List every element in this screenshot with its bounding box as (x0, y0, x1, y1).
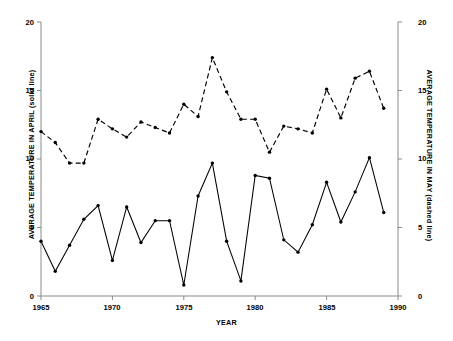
data-point-april (68, 244, 71, 247)
data-point-may (282, 124, 285, 127)
data-point-may (139, 120, 142, 123)
data-point-may (182, 103, 185, 106)
data-point-april (54, 270, 57, 273)
data-point-may (225, 90, 228, 93)
data-point-april (282, 238, 285, 241)
data-point-april (96, 204, 99, 207)
data-point-may (96, 118, 99, 121)
data-point-may (353, 76, 356, 79)
data-point-april (296, 250, 299, 253)
data-point-april (239, 279, 242, 282)
data-point-april (182, 283, 185, 286)
data-point-may (82, 161, 85, 164)
data-point-may (382, 107, 385, 110)
data-point-april (82, 218, 85, 221)
series-line-may (41, 58, 384, 163)
data-point-april (353, 190, 356, 193)
data-point-april (325, 181, 328, 184)
plot-area (0, 0, 453, 341)
data-point-april (154, 219, 157, 222)
data-point-may (168, 131, 171, 134)
data-point-april (196, 194, 199, 197)
data-point-april (382, 211, 385, 214)
data-point-may (111, 127, 114, 130)
temperature-line-chart: AVERAGE TEMPERATURE IN APRIL (solid line… (0, 0, 453, 341)
data-point-april (311, 223, 314, 226)
data-series (39, 56, 385, 287)
data-point-may (39, 130, 42, 133)
data-point-may (311, 131, 314, 134)
data-point-april (211, 161, 214, 164)
data-point-may (239, 118, 242, 121)
data-point-april (254, 174, 257, 177)
data-point-april (268, 176, 271, 179)
data-point-may (125, 135, 128, 138)
data-point-may (268, 150, 271, 153)
data-point-may (211, 56, 214, 59)
data-point-may (54, 141, 57, 144)
data-point-may (254, 118, 257, 121)
data-point-may (296, 127, 299, 130)
data-point-april (111, 259, 114, 262)
data-point-may (154, 126, 157, 129)
axes (37, 22, 402, 300)
data-point-april (225, 240, 228, 243)
data-point-may (68, 161, 71, 164)
data-point-may (325, 87, 328, 90)
data-point-april (368, 156, 371, 159)
data-point-may (368, 70, 371, 73)
series-line-april (41, 158, 384, 285)
data-point-april (339, 220, 342, 223)
data-point-april (39, 240, 42, 243)
data-point-april (125, 205, 128, 208)
data-point-may (196, 115, 199, 118)
data-point-april (168, 219, 171, 222)
data-point-may (339, 116, 342, 119)
data-point-april (139, 241, 142, 244)
